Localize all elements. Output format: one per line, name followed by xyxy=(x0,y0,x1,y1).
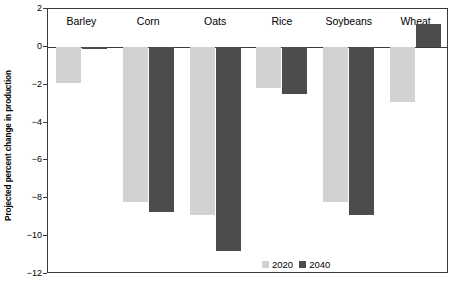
bar-rice-2020 xyxy=(256,47,281,89)
bar-oats-2040 xyxy=(216,47,241,251)
y-tick-mark xyxy=(43,273,47,274)
bar-wheat-2020 xyxy=(390,47,415,102)
y-tick-mark xyxy=(43,159,47,160)
zero-baseline xyxy=(48,47,447,48)
y-tick-label: 0 xyxy=(14,41,42,51)
bar-oats-2020 xyxy=(190,47,215,215)
y-tick-mark xyxy=(43,197,47,198)
category-label-barley: Barley xyxy=(67,15,97,27)
bar-corn-2020 xyxy=(123,47,148,202)
y-tick-label: −8 xyxy=(14,192,42,202)
legend-swatch-2040 xyxy=(299,261,306,268)
y-tick-mark xyxy=(43,235,47,236)
y-axis-tick-labels: 20−2−4−6−8−10−12 xyxy=(14,8,42,273)
category-label-corn: Corn xyxy=(137,15,160,27)
legend-label-2040: 2040 xyxy=(309,260,330,270)
y-tick-mark xyxy=(43,46,47,47)
legend-swatch-2020 xyxy=(262,261,269,268)
y-tick-label: −6 xyxy=(14,154,42,164)
bar-soybeans-2040 xyxy=(349,47,374,215)
legend-entry-2040: 2040 xyxy=(299,260,330,270)
legend-entry-2020: 2020 xyxy=(262,260,293,270)
legend-label-2020: 2020 xyxy=(272,260,293,270)
y-tick-mark xyxy=(43,84,47,85)
y-tick-label: −12 xyxy=(14,268,42,278)
y-tick-label: −2 xyxy=(14,79,42,89)
plot-area: BarleyCornOatsRiceSoybeansWheat xyxy=(47,8,448,273)
bar-chart: Projected percent change in production 2… xyxy=(0,0,457,291)
y-tick-mark xyxy=(43,122,47,123)
bar-wheat-2040 xyxy=(416,24,441,47)
category-label-oats: Oats xyxy=(204,15,226,27)
y-tick-mark xyxy=(43,8,47,9)
bar-corn-2040 xyxy=(149,47,174,212)
category-label-soybeans: Soybeans xyxy=(325,15,372,27)
y-tick-label: −4 xyxy=(14,117,42,127)
category-label-rice: Rice xyxy=(271,15,292,27)
bar-soybeans-2020 xyxy=(323,47,348,202)
y-tick-label: 2 xyxy=(14,3,42,13)
chart-legend: 20202040 xyxy=(262,260,330,270)
bar-barley-2040 xyxy=(82,47,107,49)
plot-inner: BarleyCornOatsRiceSoybeansWheat xyxy=(48,9,447,272)
bar-barley-2020 xyxy=(56,47,81,83)
bar-rice-2040 xyxy=(282,47,307,94)
y-tick-label: −10 xyxy=(14,230,42,240)
